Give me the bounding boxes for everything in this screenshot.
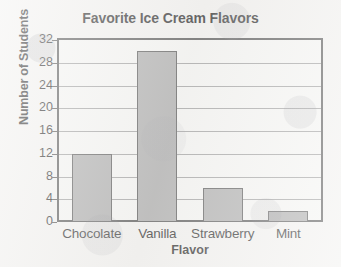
- bar-chart-figure: Favorite Ice Cream Flavors Number of Stu…: [0, 0, 341, 267]
- y-axis-tick-mark: [52, 131, 57, 132]
- y-axis-tick-mark: [52, 154, 57, 155]
- y-axis-tick-marks: [0, 0, 341, 267]
- y-axis-tick-mark: [52, 222, 57, 223]
- y-axis-tick-mark: [52, 63, 57, 64]
- y-axis-tick-mark: [52, 86, 57, 87]
- y-axis-tick-mark: [52, 177, 57, 178]
- y-axis-tick-mark: [52, 40, 57, 41]
- y-axis-tick-mark: [52, 199, 57, 200]
- y-axis-tick-mark: [52, 108, 57, 109]
